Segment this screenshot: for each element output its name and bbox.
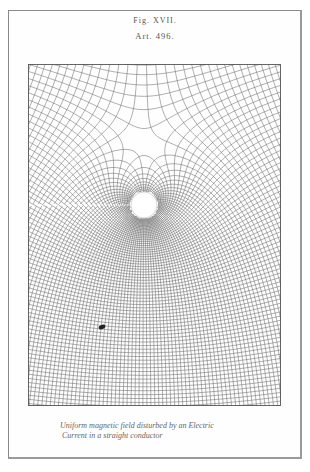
conductor-cross-section	[131, 192, 157, 218]
caption-line-1: Uniform magnetic field disturbed by an E…	[60, 421, 280, 431]
lines-of-force	[28, 64, 281, 406]
caption-line-2: Current in a straight conductor	[60, 431, 280, 441]
figure-caption: Uniform magnetic field disturbed by an E…	[60, 421, 280, 441]
field-diagram	[28, 64, 281, 406]
field-lines-plot	[28, 64, 281, 406]
figure-number: Fig. XVII.	[0, 16, 310, 25]
article-number: Art. 496.	[0, 31, 310, 41]
